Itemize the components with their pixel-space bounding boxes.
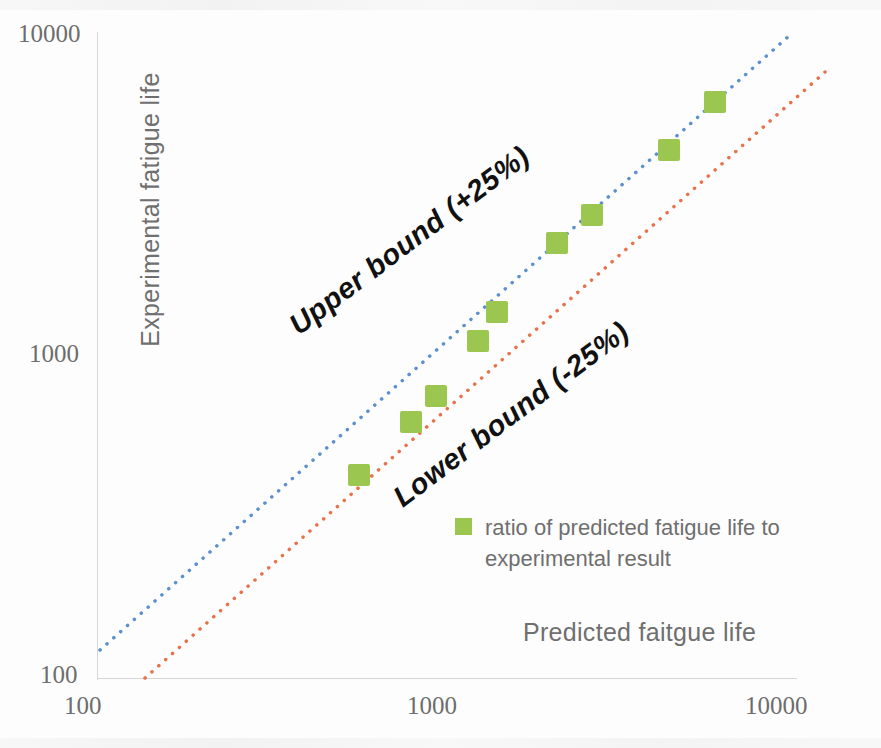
data-point-marker [658, 139, 680, 161]
data-point-marker [486, 301, 508, 323]
data-point-marker [400, 411, 422, 433]
data-point-marker [467, 330, 489, 352]
plot-lines-layer [0, 0, 881, 748]
data-point-marker [581, 204, 603, 226]
data-point-marker [425, 385, 447, 407]
fatigue-life-correlation-chart: 10000 1000 100 100 1000 10000 Experiment… [0, 0, 881, 748]
data-point-marker [546, 232, 568, 254]
legend-swatch-green [455, 518, 472, 535]
data-point-marker [704, 91, 726, 113]
data-point-marker [348, 464, 370, 486]
legend-label: ratio of predicted fatigue life to exper… [485, 512, 795, 574]
